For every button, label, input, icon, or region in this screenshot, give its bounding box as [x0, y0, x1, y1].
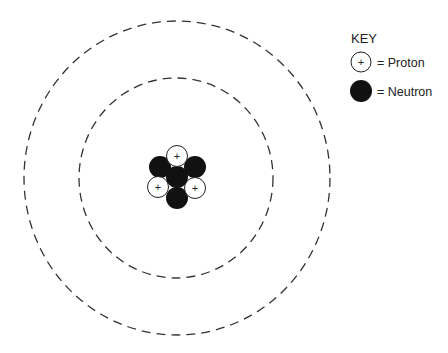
plus-icon: + — [192, 182, 198, 194]
proton: + — [167, 146, 188, 167]
nucleus: + + + — [148, 146, 207, 210]
neutron — [166, 166, 188, 188]
legend-title: KEY — [351, 31, 377, 46]
legend-item-proton: + = Proton — [351, 52, 425, 72]
plus-icon: + — [174, 150, 180, 162]
plus-icon: + — [155, 181, 161, 193]
legend-label-neutron: = Neutron — [377, 85, 432, 99]
atom-diagram: + + + KEY + = Proton = Neutron — [0, 0, 448, 353]
legend: KEY + = Proton = Neutron — [350, 31, 432, 102]
legend-label-proton: = Proton — [377, 56, 425, 70]
legend-item-neutron: = Neutron — [350, 80, 432, 102]
proton: + — [185, 178, 206, 199]
plus-icon: + — [358, 56, 364, 68]
neutron-icon — [350, 80, 372, 102]
proton: + — [148, 177, 169, 198]
